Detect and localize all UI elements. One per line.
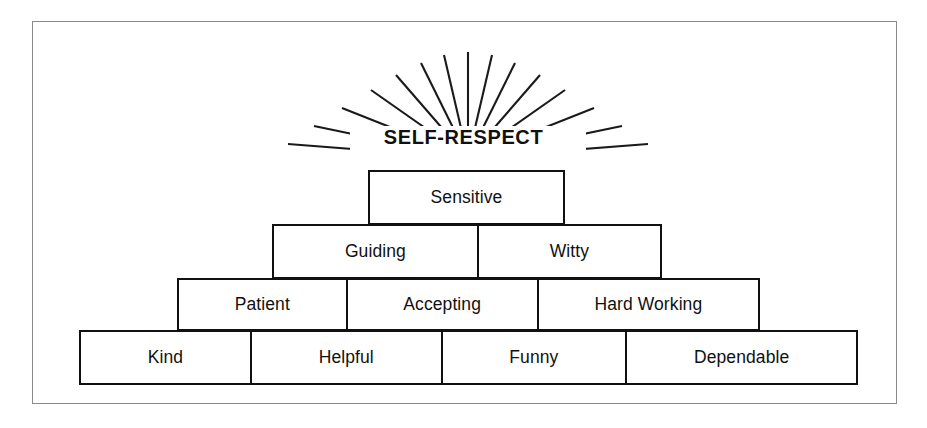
pyramid-tier-3: Patient Accepting Hard Working [177,278,760,331]
pyramid: Sensitive Guiding Witty Patient Acceptin… [0,0,927,428]
pyramid-cell[interactable]: Funny [441,332,626,383]
pyramid-cell[interactable]: Sensitive [370,172,563,223]
pyramid-cell[interactable]: Guiding [274,226,477,277]
pyramid-cell[interactable]: Helpful [250,332,441,383]
pyramid-cell[interactable]: Accepting [346,280,537,329]
pyramid-cell[interactable]: Dependable [625,332,856,383]
pyramid-cell[interactable]: Witty [477,226,660,277]
pyramid-cell[interactable]: Patient [179,280,346,329]
pyramid-cell[interactable]: Kind [81,332,250,383]
pyramid-tier-1: Sensitive [368,170,565,225]
pyramid-tier-4: Kind Helpful Funny Dependable [79,330,858,385]
pyramid-cell[interactable]: Hard Working [537,280,758,329]
diagram-canvas: SELF-RESPECT Sensitive Guiding Witty Pat… [0,0,927,428]
pyramid-tier-2: Guiding Witty [272,224,662,279]
